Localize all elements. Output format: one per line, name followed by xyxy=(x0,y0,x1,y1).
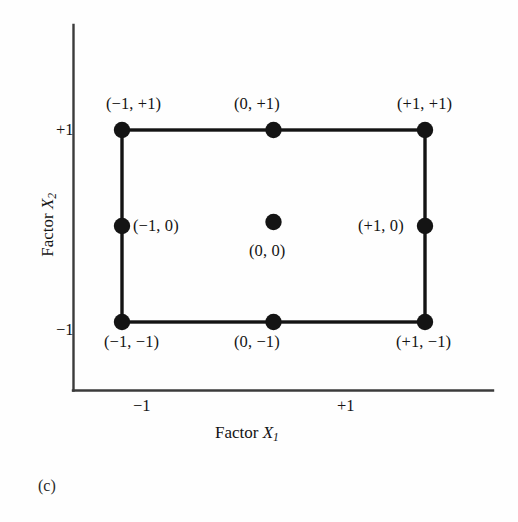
y-axis-title-var: X xyxy=(38,199,57,209)
design-point-marker xyxy=(417,122,433,138)
figure-container: +1 −1 −1 +1 (−1, +1) (0, +1) (+1, +1) (−… xyxy=(0,0,518,522)
design-point-marker xyxy=(417,218,433,234)
point-label-0-neg1: (0, −1) xyxy=(234,334,280,351)
y-axis-title: Factor X2 xyxy=(39,160,59,290)
design-point-marker xyxy=(114,218,130,234)
figure-caption: (c) xyxy=(38,478,56,494)
design-point-marker xyxy=(114,122,130,138)
design-point-marker xyxy=(265,314,281,330)
point-label-0-0: (0, 0) xyxy=(249,243,285,260)
point-label-neg1-neg1: (−1, −1) xyxy=(104,334,159,351)
point-label-pos1-neg1: (+1, −1) xyxy=(396,334,451,351)
design-point-marker xyxy=(265,122,281,138)
y-axis-title-subscript: 2 xyxy=(46,193,58,199)
x-axis-title: Factor X1 xyxy=(215,424,279,444)
point-label-pos1-0: (+1, 0) xyxy=(358,218,404,235)
design-point-marker xyxy=(265,214,281,230)
point-label-neg1-pos1: (−1, +1) xyxy=(106,96,161,113)
point-label-neg1-0: (−1, 0) xyxy=(133,218,179,235)
y-tick-label-plus1: +1 xyxy=(56,122,74,139)
y-tick-label-minus1: −1 xyxy=(56,322,74,339)
x-tick-label-minus1: −1 xyxy=(133,398,151,415)
point-label-pos1-pos1: (+1, +1) xyxy=(397,96,452,113)
x-tick-label-plus1: +1 xyxy=(337,398,355,415)
x-axis-title-subscript: 1 xyxy=(273,431,279,443)
design-point-marker xyxy=(417,314,433,330)
design-point-marker xyxy=(114,314,130,330)
x-axis-title-prefix: Factor xyxy=(215,423,263,442)
point-label-0-pos1: (0, +1) xyxy=(234,96,280,113)
y-axis-title-prefix: Factor xyxy=(38,209,57,257)
x-axis-title-var: X xyxy=(263,423,273,442)
